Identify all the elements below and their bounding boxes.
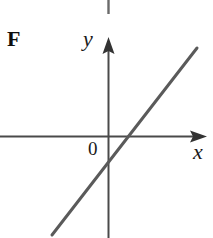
plotted-line [52, 48, 197, 235]
origin-label: 0 [88, 139, 98, 158]
x-axis-label: x [193, 141, 203, 163]
math-figure-panel: F y x 0 [0, 0, 213, 238]
y-axis-label: y [83, 28, 93, 50]
panel-letter: F [7, 28, 21, 50]
coordinate-plot [0, 0, 213, 238]
